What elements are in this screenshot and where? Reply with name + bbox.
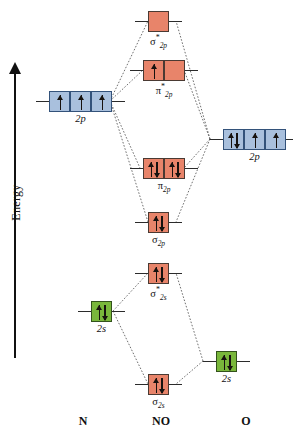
level-lead-line — [135, 384, 148, 385]
orbital-box — [148, 374, 169, 395]
electron-up-arrow — [156, 378, 157, 393]
level-trail-line — [169, 384, 182, 385]
orbital-box — [148, 11, 169, 32]
level-trail-line — [112, 101, 125, 102]
electron-up-arrow — [156, 216, 157, 231]
species-label-right: O — [224, 414, 268, 429]
orbital-box — [164, 60, 185, 81]
level-lead-line — [203, 361, 216, 362]
level-trail-line — [169, 222, 182, 223]
mo-diagram: Energy σ*2p π*2p — [0, 0, 293, 436]
electron-up-arrow — [151, 162, 152, 177]
electron-up-arrow — [156, 267, 157, 282]
level-trail-line — [112, 311, 125, 312]
electron-down-arrow — [236, 133, 237, 148]
orbital-box — [70, 91, 91, 112]
species-label-left: N — [61, 414, 105, 429]
orbital-box — [216, 351, 237, 372]
orbital-box — [265, 129, 286, 150]
electron-up-arrow — [231, 133, 232, 148]
level-trail-line — [237, 361, 250, 362]
level-pi-2p: π2p — [130, 158, 198, 179]
orbital-label-sigma-star-2s: σ*2s — [135, 285, 182, 302]
orbital-label-pi-2p: π2p — [130, 180, 198, 194]
level-trail-line — [286, 139, 293, 140]
orbital-label-n-2s: 2s — [78, 323, 125, 334]
electron-up-arrow — [154, 64, 155, 79]
species-label-center: NO — [139, 414, 183, 429]
electron-up-arrow — [276, 133, 277, 148]
orbital-box — [91, 301, 112, 322]
orbital-box — [244, 129, 265, 150]
level-trail-line — [185, 168, 198, 169]
level-sigma-star-2p: σ*2p — [135, 11, 182, 32]
orbital-box — [91, 91, 112, 112]
electron-down-arrow — [161, 216, 162, 231]
level-lead-line — [130, 168, 143, 169]
orbital-label-pi-star-2p: π*2p — [130, 82, 198, 99]
orbital-label-sigma-star-2p: σ*2p — [135, 33, 182, 50]
orbital-box — [148, 263, 169, 284]
level-lead-line — [135, 273, 148, 274]
orbital-box — [143, 60, 164, 81]
electron-up-arrow — [224, 355, 225, 370]
orbital-label-sigma-2p: σ2p — [135, 234, 182, 248]
electron-down-arrow — [156, 162, 157, 177]
electron-up-arrow — [255, 133, 256, 148]
level-sigma-star-2s: σ*2s — [135, 263, 182, 284]
electron-down-arrow — [161, 378, 162, 393]
electron-down-arrow — [177, 162, 178, 177]
level-lead-line — [135, 21, 148, 22]
level-sigma-2p: σ2p — [135, 212, 182, 233]
orbital-label-o-2p: 2p — [210, 151, 293, 162]
electron-down-arrow — [104, 305, 105, 320]
level-trail-line — [169, 273, 182, 274]
electron-up-arrow — [81, 95, 82, 110]
orbital-label-sigma-2s: σ2s — [135, 396, 182, 410]
orbital-box — [49, 91, 70, 112]
level-n-2p: 2p — [36, 91, 125, 112]
level-o-2s: 2s — [203, 351, 250, 372]
level-o-2p: 2p — [210, 129, 293, 150]
orbital-box — [223, 129, 244, 150]
level-lead-line — [78, 311, 91, 312]
level-trail-line — [185, 70, 198, 71]
level-lead-line — [36, 101, 49, 102]
orbital-box — [164, 158, 185, 179]
orbital-label-o-2s: 2s — [203, 373, 250, 384]
level-sigma-2s: σ2s — [135, 374, 182, 395]
level-n-2s: 2s — [78, 301, 125, 322]
orbital-label-n-2p: 2p — [36, 113, 125, 124]
level-lead-line — [210, 139, 223, 140]
electron-up-arrow — [60, 95, 61, 110]
orbital-box — [148, 212, 169, 233]
level-lead-line — [135, 222, 148, 223]
level-pi-star-2p: π*2p — [130, 60, 198, 81]
level-trail-line — [169, 21, 182, 22]
electron-up-arrow — [99, 305, 100, 320]
level-lead-line — [130, 70, 143, 71]
electron-up-arrow — [172, 162, 173, 177]
electron-down-arrow — [161, 267, 162, 282]
energy-axis-label: Energy — [9, 168, 24, 238]
electron-up-arrow — [102, 95, 103, 110]
electron-down-arrow — [229, 355, 230, 370]
orbital-box — [143, 158, 164, 179]
